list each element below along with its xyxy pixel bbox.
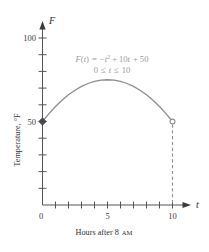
equation-equals: = — [92, 54, 97, 64]
domain-upper: 10 — [122, 65, 131, 75]
equation-line: F(t)=−t2+10t+50 — [75, 53, 149, 64]
equation-annotation-group: F(t)=−t2+10t+50 0≤t≤10 — [75, 53, 149, 75]
y-tick-label-50: 50 — [28, 117, 37, 127]
endpoint-marker-right — [170, 119, 175, 124]
x-axis-caption-main: Hours after 8 — [76, 228, 119, 237]
figure-container: 100 50 F Temperature, °F 0 — [0, 0, 209, 252]
domain-var: t — [109, 65, 112, 75]
equation-arg-close: ) — [86, 54, 89, 64]
equation-plus-one: + — [112, 54, 117, 64]
domain-line: 0≤t≤10 — [94, 65, 131, 75]
y-axis-arrowhead — [39, 21, 45, 30]
x-tick-label-10: 10 — [168, 211, 177, 221]
domain-le-one: ≤ — [101, 65, 106, 75]
x-axis-caption-ampm: AM — [122, 229, 133, 236]
equation-exponent: 2 — [107, 53, 110, 60]
x-tick-label-5: 5 — [105, 211, 109, 221]
x-axis-caption: Hours after 8AM — [76, 228, 133, 237]
domain-lower: 0 — [94, 65, 98, 75]
data-curve-group — [39, 80, 175, 204]
y-axis-group: 100 50 F Temperature, °F — [13, 15, 56, 205]
y-axis-caption: Temperature, °F — [13, 113, 22, 167]
x-tick-label-0: 0 — [39, 211, 43, 221]
y-tick-label-100: 100 — [23, 33, 36, 43]
x-axis-variable-label: t — [196, 199, 199, 210]
domain-le-two: ≤ — [114, 65, 119, 75]
parabola-curve — [43, 80, 173, 122]
equation-plus-two: + — [133, 54, 138, 64]
x-axis-arrowhead — [183, 202, 192, 208]
equation-coefficient-var: t — [128, 54, 131, 64]
equation-constant: 50 — [140, 54, 149, 64]
equation-coefficient: 10 — [119, 54, 128, 64]
parabola-chart: 100 50 F Temperature, °F 0 — [0, 0, 209, 252]
x-axis-group: 0 5 10 t Hours after 8AM — [39, 199, 199, 237]
y-axis-variable-label: F — [48, 15, 56, 26]
